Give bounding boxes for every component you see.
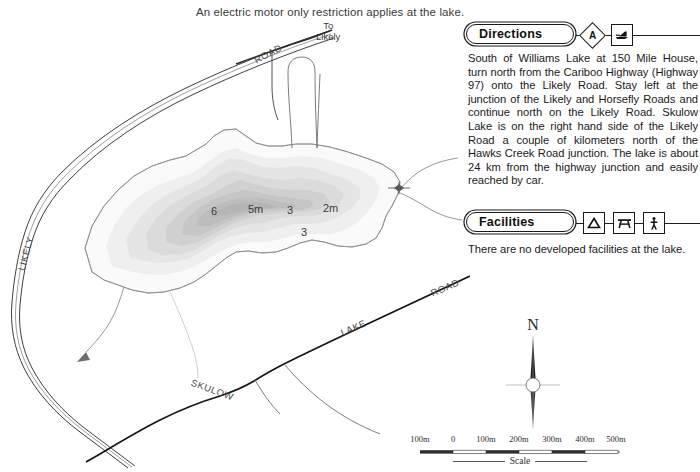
creek-east-2 (398, 158, 458, 192)
facilities-header: Facilities (466, 212, 574, 232)
scale-label: Scale (420, 456, 620, 466)
scale-tick-1: 0 (451, 434, 455, 444)
scale-tick-0: 100m (410, 434, 429, 444)
compass-north-label: N (498, 316, 568, 334)
scale-word: Scale (510, 456, 531, 466)
map-page: An electric motor only restriction appli… (0, 0, 700, 472)
toilet-icon (643, 212, 665, 234)
creek-outflow (86, 287, 124, 352)
directions-title: Directions (479, 27, 542, 41)
info-panel: Directions A South of Williams Lake at 1… (466, 24, 700, 257)
depth-label-5m: 5m (248, 203, 263, 215)
land-boundary (170, 292, 198, 378)
spur-road-2 (255, 380, 280, 414)
toilet-glyph (648, 216, 660, 230)
map-graphics (0, 0, 470, 472)
top-road-branch (272, 52, 278, 120)
creek-east-1 (398, 192, 462, 220)
depth-label-6: 6 (211, 205, 217, 217)
scale-tick-2: 100m (476, 434, 495, 444)
depth-label-3a: 3 (287, 204, 293, 216)
compass-rose: N (498, 316, 568, 428)
directions-header: Directions (466, 24, 574, 44)
tent-icon (583, 212, 605, 234)
route-badge-a-icon: A (579, 22, 606, 49)
boat-launch-glyph (614, 28, 630, 42)
creek-north-2 (317, 74, 320, 148)
route-badge-label: A (589, 30, 596, 41)
facilities-title: Facilities (479, 215, 535, 229)
tent-glyph (587, 217, 601, 229)
facilities-band: Facilities (466, 212, 700, 236)
directions-band: Directions A (466, 24, 700, 48)
map-canvas: To Likely ROAD LIKELY SKULOW LAKE ROAD 6… (0, 0, 470, 472)
facilities-text: There are no developed facilities at the… (468, 243, 698, 257)
depth-label-3b: 3 (301, 226, 307, 238)
picnic-table-glyph (617, 217, 632, 229)
depth-label-2m: 2m (323, 202, 338, 214)
creek-outflow-arrow (77, 352, 90, 362)
scale-tick-6: 500m (606, 434, 625, 444)
directions-text: South of Williams Lake at 150 Mile House… (468, 52, 698, 188)
scale-bar: 100m 0 100m 200m 300m 400m 500m Scale (420, 434, 620, 470)
scale-tick-3: 200m (509, 434, 528, 444)
picnic-table-icon (613, 212, 635, 234)
spur-road (284, 364, 380, 434)
creek-north-1 (288, 57, 317, 148)
boat-launch-icon (611, 24, 633, 46)
scale-tick-labels: 100m 0 100m 200m 300m 400m 500m (420, 434, 620, 447)
compass-needle-graphic (498, 336, 568, 428)
scale-tick-5: 400m (575, 434, 594, 444)
map-label-to-likely: To Likely (316, 20, 340, 42)
scale-tick-4: 300m (542, 434, 561, 444)
